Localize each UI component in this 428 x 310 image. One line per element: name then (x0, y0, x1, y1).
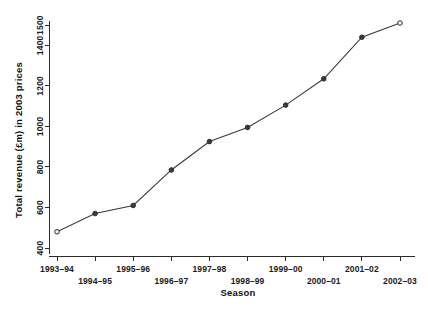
data-point-marker (360, 35, 365, 40)
x-tick-label: 1995–96 (116, 264, 150, 274)
y-tick-labels: 4006008001000120014001500 (35, 15, 45, 255)
x-axis-title: Season (221, 287, 256, 298)
x-tick-label: 1994–95 (78, 276, 112, 286)
data-point-marker (93, 211, 98, 216)
x-tick-label: 1996–97 (154, 276, 188, 286)
x-axis (49, 256, 415, 261)
y-tick-label: 400 (35, 241, 45, 256)
chart-container: 4006008001000120014001500 1993–941994–95… (0, 0, 428, 310)
data-point-marker (321, 76, 326, 81)
line-chart-plot: 4006008001000120014001500 1993–941994–95… (0, 0, 428, 310)
data-point-marker (131, 203, 136, 208)
series-line-total-revenue (57, 23, 400, 232)
data-series-total-revenue (55, 21, 403, 234)
y-tick-label: 1400 (35, 35, 45, 55)
data-point-marker (283, 103, 288, 108)
x-tick-label: 1993–94 (40, 264, 74, 274)
x-tick-label: 2002–03 (383, 276, 417, 286)
y-tick-label: 1500 (35, 15, 45, 35)
x-tick-label: 2001–02 (345, 264, 379, 274)
data-point-marker (55, 229, 60, 234)
x-tick-label: 2000–01 (307, 276, 341, 286)
data-point-marker (245, 125, 250, 130)
y-tick-label: 1000 (35, 116, 45, 136)
x-tick-label: 1997–98 (193, 264, 227, 274)
data-point-marker (169, 168, 174, 173)
data-point-marker (207, 139, 212, 144)
y-tick-label: 800 (35, 159, 45, 174)
y-axis-title: Total revenue (£m) in 2003 prices (13, 62, 24, 218)
data-point-marker (398, 21, 403, 26)
x-tick-label: 1999–00 (269, 264, 303, 274)
y-axis (45, 21, 49, 254)
x-tick-labels: 1993–941994–951995–961996–971997–981998–… (40, 264, 417, 286)
y-tick-label: 600 (35, 200, 45, 215)
x-tick-label: 1998–99 (231, 276, 265, 286)
y-tick-label: 1200 (35, 76, 45, 96)
